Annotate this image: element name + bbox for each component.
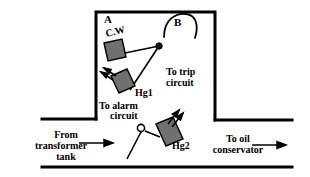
mercury-switch-1-block [111,69,135,93]
label-chamber-a: A [104,14,112,26]
label-trip-circuit-line2: circuit [166,78,194,89]
upper-float-assembly [101,39,162,93]
label-chamber-b: B [174,17,181,29]
label-to-conservator-line2: conservator [202,145,274,156]
lower-float-arm [145,131,160,137]
label-from-tank-line3: tank [34,152,98,163]
label-from-tank-line1: From [34,130,98,141]
label-from-tank-line2: transformer [24,141,98,152]
counterweight-block [104,39,126,61]
buchholz-relay-diagram: A B C.W Hg1 Hg2 To alarm circuit To trip… [0,0,310,177]
upper-pivot-dot [156,43,162,49]
label-trip-circuit-line1: To trip [166,67,195,78]
label-mercury-switch-1: Hg1 [135,88,153,99]
lower-float-tail-arm [127,130,142,159]
label-alarm-circuit-line2: circuit [110,111,138,122]
lower-pivot-circle [137,124,144,131]
label-mercury-switch-2: Hg2 [172,141,190,152]
counterweight-arm [120,46,159,54]
label-to-conservator-line1: To oil [214,134,262,145]
